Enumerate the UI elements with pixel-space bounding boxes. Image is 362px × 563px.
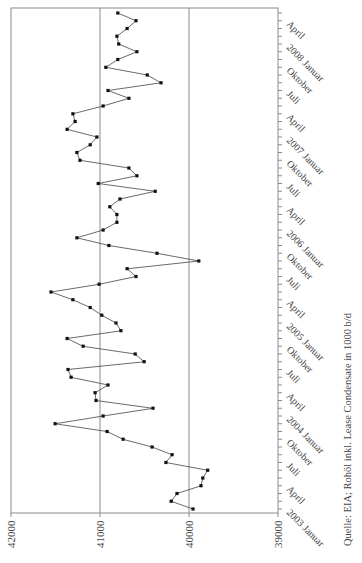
time-axis-label: April xyxy=(285,18,308,41)
data-point xyxy=(66,337,69,340)
data-point xyxy=(102,104,105,107)
data-point xyxy=(102,414,105,417)
data-point xyxy=(154,190,157,193)
data-point xyxy=(66,128,69,131)
value-axis-label: 41000 xyxy=(94,520,106,548)
data-point xyxy=(143,360,146,363)
data-point xyxy=(117,42,120,45)
data-point xyxy=(135,174,138,177)
data-point xyxy=(74,120,77,123)
data-point xyxy=(75,151,78,154)
data-point xyxy=(114,321,117,324)
data-point xyxy=(126,267,129,270)
data-point xyxy=(118,197,121,200)
series-line xyxy=(51,13,208,509)
data-point xyxy=(134,19,137,22)
time-axis-labels: 2003 JanuarAprilJuliOktober2004 JanuarAp… xyxy=(285,18,328,549)
data-point xyxy=(115,221,118,224)
data-point xyxy=(201,476,204,479)
data-markers xyxy=(49,11,209,510)
data-point xyxy=(94,391,97,394)
data-point xyxy=(71,112,74,115)
time-axis-label: Juli xyxy=(285,367,303,385)
data-point xyxy=(54,422,57,425)
data-point xyxy=(134,275,137,278)
rotated-line-chart: 42000410004000039000 2003 JanuarAprilJul… xyxy=(0,0,362,563)
data-point xyxy=(155,252,158,255)
data-point xyxy=(94,399,97,402)
data-point xyxy=(171,453,174,456)
time-axis-label: April xyxy=(285,390,308,413)
data-point xyxy=(197,259,200,262)
data-point xyxy=(159,81,162,84)
time-axis-label: April xyxy=(285,111,308,134)
data-point xyxy=(164,461,167,464)
value-axis-label: 40000 xyxy=(183,520,195,548)
data-point xyxy=(106,89,109,92)
time-axis-label: April xyxy=(285,204,308,227)
data-point xyxy=(151,445,154,448)
data-point xyxy=(206,469,209,472)
time-axis-label: 2003 Januar xyxy=(285,507,328,550)
data-point xyxy=(102,228,105,231)
data-point xyxy=(107,244,110,247)
data-point xyxy=(115,213,118,216)
data-point xyxy=(146,73,149,76)
time-axis-label: April xyxy=(285,483,308,506)
data-point xyxy=(89,143,92,146)
data-point xyxy=(106,430,109,433)
data-point xyxy=(70,376,73,379)
data-point xyxy=(170,500,173,503)
data-point xyxy=(95,135,98,138)
data-point xyxy=(97,182,100,185)
data-point xyxy=(199,484,202,487)
data-point xyxy=(106,383,109,386)
time-axis-label: Juli xyxy=(285,460,303,478)
value-axis-label: 39000 xyxy=(272,520,284,548)
data-point xyxy=(108,205,111,208)
data-point xyxy=(116,58,119,61)
value-axis-label: 42000 xyxy=(5,520,17,548)
data-point xyxy=(115,35,118,38)
data-point xyxy=(175,492,178,495)
data-point xyxy=(98,283,101,286)
data-point xyxy=(135,50,138,53)
data-point xyxy=(75,236,78,239)
data-point xyxy=(191,507,194,510)
plot-frame xyxy=(11,8,278,513)
data-point xyxy=(116,11,119,14)
data-point xyxy=(151,407,154,410)
time-axis-label: Juli xyxy=(285,181,303,199)
time-axis-label: Juli xyxy=(285,88,303,106)
data-point xyxy=(126,27,129,30)
value-axis-labels: 42000410004000039000 xyxy=(5,513,284,548)
data-point xyxy=(66,368,69,371)
data-point xyxy=(127,97,130,100)
data-point xyxy=(122,438,125,441)
data-point xyxy=(71,298,74,301)
data-point xyxy=(82,345,85,348)
source-caption: Quelle: EIA; Rohöl inkl. Lease Condensat… xyxy=(342,312,353,546)
data-point xyxy=(104,66,107,69)
gridlines xyxy=(100,8,189,513)
data-point xyxy=(134,352,137,355)
data-point xyxy=(78,159,81,162)
data-point xyxy=(127,166,130,169)
time-axis-label: April xyxy=(285,297,308,320)
data-point xyxy=(89,306,92,309)
data-point xyxy=(100,314,103,317)
time-axis-label: Juli xyxy=(285,274,303,292)
data-point xyxy=(119,329,122,332)
time-axis-ticks xyxy=(278,13,282,509)
data-point xyxy=(49,290,52,293)
